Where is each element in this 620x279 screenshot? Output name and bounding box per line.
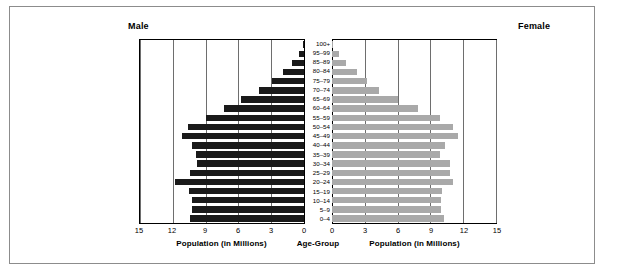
bar-row bbox=[140, 95, 304, 104]
bar-row bbox=[140, 177, 304, 186]
male-bar-15–19[interactable] bbox=[189, 188, 304, 194]
age-group-label-text: 50–54 bbox=[313, 124, 330, 130]
female-bar-30–34[interactable] bbox=[332, 160, 450, 166]
bar-row bbox=[332, 159, 496, 168]
female-bar-55–59[interactable] bbox=[332, 115, 440, 121]
female-bar-65–69[interactable] bbox=[332, 96, 398, 102]
axis-tick-6: 6 bbox=[236, 226, 240, 235]
axis-tick-12: 12 bbox=[168, 226, 176, 235]
age-group-label: 20–24 bbox=[304, 178, 332, 187]
axis-tick-3: 3 bbox=[269, 226, 273, 235]
female-bar-40–44[interactable] bbox=[332, 142, 445, 148]
gridline-15 bbox=[496, 40, 497, 223]
right-axis-caption: Population (in Millions) bbox=[332, 239, 497, 248]
bar-row bbox=[332, 205, 496, 214]
female-bar-25–29[interactable] bbox=[332, 170, 450, 176]
bar-row bbox=[140, 168, 304, 177]
female-bar-85–89[interactable] bbox=[332, 60, 346, 66]
female-bar-100+[interactable] bbox=[332, 41, 333, 47]
age-group-label-text: 55–59 bbox=[313, 115, 330, 121]
age-group-label: 5–9 bbox=[304, 206, 332, 215]
male-bar-70–74[interactable] bbox=[259, 87, 304, 93]
left-axis-caption: Population (in Millions) bbox=[139, 239, 304, 248]
male-bar-20–24[interactable] bbox=[175, 179, 304, 185]
male-bar-25–29[interactable] bbox=[190, 170, 304, 176]
bar-row bbox=[332, 214, 496, 223]
male-bar-65–69[interactable] bbox=[241, 96, 304, 102]
age-group-label-text: 75–79 bbox=[313, 78, 330, 84]
female-bar-50–54[interactable] bbox=[332, 124, 453, 130]
axis-tick-12: 12 bbox=[460, 226, 468, 235]
age-group-label-text: 80–84 bbox=[313, 68, 330, 74]
male-bar-80–84[interactable] bbox=[283, 69, 304, 75]
female-bar-60–64[interactable] bbox=[332, 105, 418, 111]
male-bar-40–44[interactable] bbox=[192, 142, 304, 148]
axis-tick-6: 6 bbox=[396, 226, 400, 235]
age-group-label-text: 70–74 bbox=[313, 87, 330, 93]
female-bar-15–19[interactable] bbox=[332, 188, 442, 194]
age-group-label-text: 100+ bbox=[316, 41, 330, 47]
male-bar-0–4[interactable] bbox=[190, 215, 304, 221]
male-bar-75–79[interactable] bbox=[272, 78, 304, 84]
age-group-label-column: 100+95–9985–8980–8475–7970–7465–6960–645… bbox=[304, 39, 332, 224]
age-group-label-text: 95–99 bbox=[313, 50, 330, 56]
axis-tick-15: 15 bbox=[135, 226, 143, 235]
age-group-label: 10–14 bbox=[304, 196, 332, 205]
age-group-label-text: 65–69 bbox=[313, 96, 330, 102]
bar-row bbox=[140, 49, 304, 58]
axis-tick-9: 9 bbox=[429, 226, 433, 235]
female-bar-80–84[interactable] bbox=[332, 69, 357, 75]
bar-row bbox=[140, 86, 304, 95]
bar-row bbox=[332, 40, 496, 49]
bar-row bbox=[140, 58, 304, 67]
male-bar-35–39[interactable] bbox=[196, 151, 304, 157]
female-bar-20–24[interactable] bbox=[332, 179, 453, 185]
female-bar-95–99[interactable] bbox=[332, 51, 339, 57]
male-bar-55–59[interactable] bbox=[206, 115, 304, 121]
age-group-label: 85–89 bbox=[304, 58, 332, 67]
female-bar-0–4[interactable] bbox=[332, 215, 444, 221]
male-header-label: Male bbox=[128, 21, 149, 31]
age-group-label: 70–74 bbox=[304, 85, 332, 94]
female-bar-75–79[interactable] bbox=[332, 78, 367, 84]
age-group-label-text: 0–4 bbox=[320, 216, 330, 222]
male-bar-30–34[interactable] bbox=[197, 160, 304, 166]
axis-tick-3: 3 bbox=[363, 226, 367, 235]
bar-row bbox=[140, 40, 304, 49]
age-group-label-text: 25–29 bbox=[313, 170, 330, 176]
age-group-label-text: 5–9 bbox=[320, 207, 330, 213]
male-bar-rows bbox=[140, 40, 304, 223]
age-group-label: 15–19 bbox=[304, 187, 332, 196]
bar-row bbox=[332, 77, 496, 86]
bar-row bbox=[332, 168, 496, 177]
bar-row bbox=[332, 86, 496, 95]
male-bar-5–9[interactable] bbox=[192, 206, 304, 212]
age-group-label: 60–64 bbox=[304, 104, 332, 113]
age-group-label-text: 45–49 bbox=[313, 133, 330, 139]
bar-row bbox=[140, 132, 304, 141]
age-group-label: 30–34 bbox=[304, 159, 332, 168]
figure-frame: Male Female 100+95–9985–8980–8475–7970–7… bbox=[9, 6, 595, 264]
female-bar-10–14[interactable] bbox=[332, 197, 441, 203]
female-bar-70–74[interactable] bbox=[332, 87, 379, 93]
bar-row bbox=[332, 67, 496, 76]
male-bar-85–89[interactable] bbox=[292, 60, 304, 66]
female-bar-45–49[interactable] bbox=[332, 133, 458, 139]
male-bar-60–64[interactable] bbox=[224, 105, 304, 111]
bar-row bbox=[332, 49, 496, 58]
male-bar-45–49[interactable] bbox=[182, 133, 304, 139]
bar-row bbox=[332, 187, 496, 196]
male-bar-50–54[interactable] bbox=[188, 124, 304, 130]
axis-tick-0: 0 bbox=[330, 226, 334, 235]
age-group-label: 50–54 bbox=[304, 122, 332, 131]
female-bar-5–9[interactable] bbox=[332, 206, 441, 212]
bar-row bbox=[332, 150, 496, 159]
female-bar-35–39[interactable] bbox=[332, 151, 440, 157]
bar-row bbox=[140, 205, 304, 214]
bar-row bbox=[332, 196, 496, 205]
male-bar-10–14[interactable] bbox=[192, 197, 304, 203]
age-group-label-text: 85–89 bbox=[313, 59, 330, 65]
age-group-label: 35–39 bbox=[304, 150, 332, 159]
female-plot-panel bbox=[332, 39, 497, 224]
bar-row bbox=[140, 67, 304, 76]
